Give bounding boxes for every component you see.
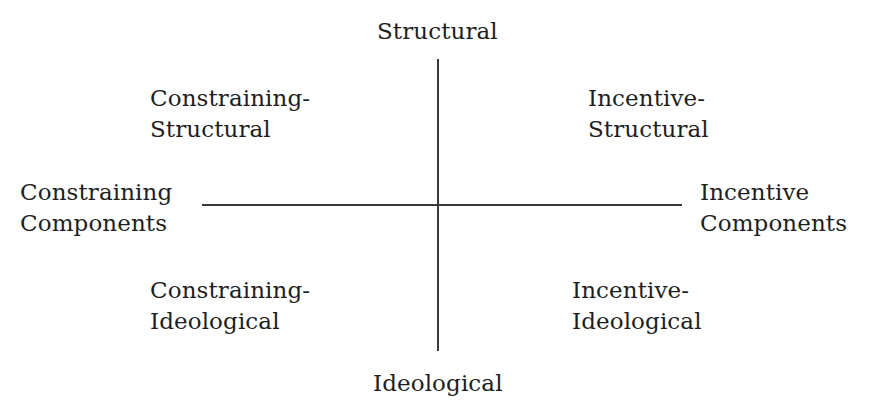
quadrant-top-left-line2: Structural: [150, 114, 310, 145]
quadrant-top-right-line2: Structural: [588, 114, 709, 145]
quadrant-label-top-right: Incentive- Structural: [588, 83, 709, 145]
axis-label-top-text: Structural: [377, 16, 498, 47]
quadrant-label-top-left: Constraining- Structural: [150, 83, 310, 145]
axis-label-right: Incentive Components: [700, 177, 847, 239]
horizontal-axis-line: [202, 204, 682, 206]
quadrant-diagram: Structural Ideological Constraining Comp…: [0, 0, 877, 420]
axis-label-right-line1: Incentive: [700, 177, 847, 208]
axis-label-right-line2: Components: [700, 208, 847, 239]
quadrant-bottom-left-line2: Ideological: [150, 306, 310, 337]
quadrant-bottom-right-line1: Incentive-: [572, 275, 702, 306]
quadrant-label-bottom-left: Constraining- Ideological: [150, 275, 310, 337]
axis-label-bottom-text: Ideological: [373, 368, 503, 399]
quadrant-top-right-line1: Incentive-: [588, 83, 709, 114]
axis-label-top: Structural: [377, 16, 498, 47]
axis-label-left: Constraining Components: [20, 177, 172, 239]
quadrant-label-bottom-right: Incentive- Ideological: [572, 275, 702, 337]
axis-label-bottom: Ideological: [373, 368, 503, 399]
quadrant-bottom-left-line1: Constraining-: [150, 275, 310, 306]
quadrant-bottom-right-line2: Ideological: [572, 306, 702, 337]
axis-label-left-line1: Constraining: [20, 177, 172, 208]
axis-label-left-line2: Components: [20, 208, 172, 239]
quadrant-top-left-line1: Constraining-: [150, 83, 310, 114]
